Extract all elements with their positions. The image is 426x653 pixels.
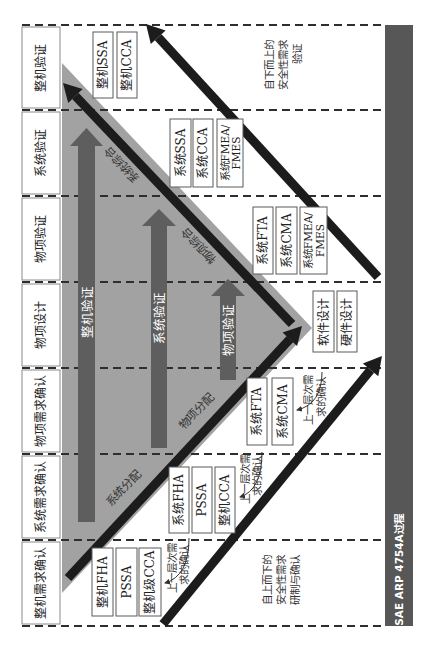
- annotation-line: 安全性需求: [275, 554, 287, 605]
- stage-label-item-verification: 物项验证: [33, 215, 48, 263]
- analysis-box-label: 整机SSA: [95, 40, 110, 89]
- bottom-up-annotation: 自下而上的 安全性需求 验证: [263, 39, 303, 90]
- stage-label-system-verification: 系统验证: [33, 129, 48, 177]
- analysis-box-label: PSSA: [195, 483, 209, 516]
- stage-label-item-design: 物项设计: [34, 301, 48, 349]
- top-down-annotation: 自上而下的 安全性需求 研制与确认: [261, 554, 301, 605]
- analysis-box-label: 整机FHA: [95, 556, 110, 608]
- process-bar-label: SAE ARP 4754A过程: [393, 513, 405, 625]
- row-item-design-boxes: 软件设计 硬件设计: [313, 291, 357, 352]
- annotation-line: 安全性需求: [277, 39, 289, 90]
- verification-arrow-label: 整机验证: [80, 286, 95, 338]
- requirement-validation-note: 上一层次需: [166, 543, 178, 593]
- stage-label-aircraft-verification: 整机验证: [33, 44, 48, 92]
- analysis-box-label: FMES: [230, 137, 242, 170]
- stage-label-column: 整机验证 系统验证 物项验证 物项设计 物项需求确认 系统需求确认 整机需求确认: [22, 27, 60, 624]
- analysis-box-label: FMES: [314, 224, 326, 257]
- requirement-validation-note: 求的确认: [315, 376, 327, 417]
- analysis-box-label: 系统FHA: [172, 474, 186, 526]
- analysis-box-label: 系统FTA: [250, 387, 264, 436]
- row-aircraft-verification-boxes: 整机SSA 整机CCA: [93, 32, 137, 98]
- analysis-box-label: 整机级CCA: [142, 550, 157, 613]
- analysis-box-label: 系统CMA: [280, 213, 294, 267]
- annotation-line: 验证: [291, 43, 303, 64]
- design-box-label: 软件设计: [317, 298, 331, 346]
- analysis-box-label: 整机CCA: [119, 39, 134, 90]
- annotation-line: 自上而下的: [261, 555, 273, 605]
- analysis-box-label: 系统SSA: [174, 128, 188, 177]
- annotation-line: 自下而上的: [263, 40, 275, 90]
- row-item-verification-boxes: 系统FTA 系统CMA 系统FMEA/ FMES: [253, 207, 327, 274]
- verification-arrow-label: 系统验证: [152, 292, 167, 344]
- safety-process-diagram: SAE ARP 4754A过程 整机验证 系统验证 物项验证 物项设计 物项需求…: [0, 0, 426, 653]
- requirement-validation-note: 求的确认: [178, 544, 190, 585]
- verification-arrow-label: 物项验证: [221, 304, 236, 356]
- requirement-validation-note: 上一层次需: [302, 375, 314, 425]
- annotation-line: 研制与确认: [289, 554, 301, 605]
- stage-label-item-requirements: 物项需求确认: [34, 375, 48, 447]
- analysis-box-label: 系统FMEA/: [219, 124, 231, 181]
- stage-label-aircraft-requirements: 整机需求确认: [33, 547, 48, 619]
- design-box-label: 硬件设计: [340, 298, 354, 346]
- analysis-box-label: 整机CCA: [217, 474, 232, 525]
- requirement-validation-note: 求的确认: [251, 455, 263, 496]
- requirement-validation-note: 上一层次需: [239, 454, 251, 504]
- analysis-box-label: 系统CMA: [276, 384, 290, 438]
- analysis-box-label: PSSA: [120, 565, 134, 598]
- analysis-box-label: 系统FMEA/: [302, 212, 314, 269]
- stage-label-system-requirements: 系统需求确认: [34, 461, 48, 533]
- analysis-box-label: 系统FTA: [256, 216, 270, 265]
- analysis-box-label: 系统CCA: [196, 127, 210, 178]
- row-system-verification-boxes: 系统SSA 系统CCA 系统FMEA/ FMES: [170, 119, 243, 187]
